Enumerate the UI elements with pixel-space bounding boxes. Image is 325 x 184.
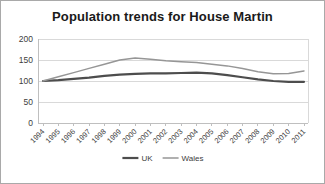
y-axis-label: 200 (19, 34, 33, 44)
y-axis-label: 100 (19, 76, 33, 86)
x-axis-label: 1995 (44, 127, 62, 145)
x-axis-label: 1998 (90, 127, 108, 145)
x-axis-label: 1996 (59, 127, 77, 145)
x-axis-label: 2001 (136, 127, 154, 145)
legend-label-uk: UK (141, 154, 153, 163)
x-axis-label: 2011 (290, 127, 308, 145)
population-chart: 0501001502001994199519961997199819992000… (1, 1, 325, 184)
x-axis-label: 2006 (212, 127, 230, 145)
legend-label-wales: Wales (182, 154, 204, 163)
chart-frame: Population trends for House Martin 05010… (0, 0, 325, 184)
x-axis-label: 1997 (74, 127, 92, 145)
y-axis-label: 0 (28, 118, 33, 128)
y-axis-label: 50 (24, 97, 34, 107)
x-axis-label: 2010 (274, 127, 292, 145)
x-axis-label: 1994 (28, 127, 46, 145)
x-axis-label: 2007 (228, 127, 246, 145)
x-axis-label: 1999 (105, 127, 123, 145)
x-axis-label: 2002 (151, 127, 169, 145)
series-line-uk (43, 73, 304, 82)
y-axis-label: 150 (19, 55, 33, 65)
x-axis-label: 2003 (166, 127, 184, 145)
x-axis-label: 2004 (182, 127, 200, 145)
x-axis-label: 2009 (259, 127, 277, 145)
x-axis-label: 2005 (197, 127, 215, 145)
x-axis-label: 2008 (243, 127, 261, 145)
x-axis-label: 2000 (120, 127, 138, 145)
